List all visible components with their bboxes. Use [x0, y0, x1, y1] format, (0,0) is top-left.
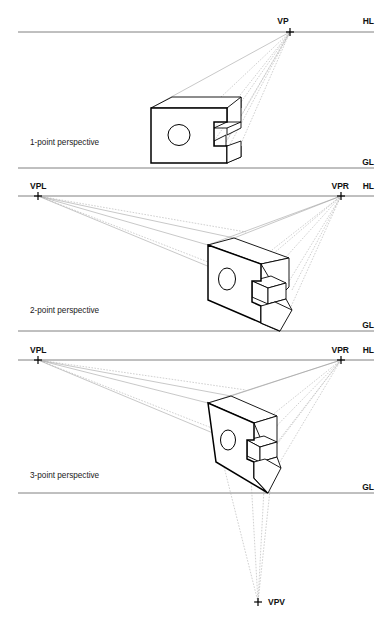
vanishing-point-vpv-3	[254, 598, 262, 606]
label-vpr-2: VPR	[332, 181, 349, 191]
caption-one-point: 1-point perspective	[30, 138, 100, 147]
label-hl-3: HL	[363, 345, 374, 355]
vanishing-point-vpr-2	[337, 192, 345, 200]
vanishing-point-vpl-3	[34, 356, 42, 364]
panel-one-point: VP HL GL 1-point perspective	[18, 16, 374, 168]
panel-three-point: VPL VPR HL GL VPV 3-point perspective	[18, 345, 374, 607]
panel-two-point: VPL VPR HL GL 2-point perspective	[18, 181, 374, 331]
label-vp-1: VP	[277, 16, 289, 26]
label-vpv-3: VPV	[268, 597, 285, 607]
circular-hole-2	[219, 268, 236, 290]
label-vpr-3: VPR	[332, 345, 349, 355]
caption-three-point: 3-point perspective	[30, 471, 100, 480]
vanishing-point-vpl-2	[34, 192, 42, 200]
object-three-point	[208, 396, 281, 493]
caption-two-point: 2-point perspective	[30, 306, 100, 315]
label-gl-3: GL	[362, 482, 374, 492]
label-hl-1: HL	[363, 16, 374, 26]
circular-hole-1	[168, 125, 190, 146]
label-hl-2: HL	[363, 181, 374, 191]
label-vpl-3: VPL	[30, 345, 47, 355]
label-vpl-2: VPL	[30, 181, 47, 191]
circular-hole-3	[221, 430, 236, 450]
label-gl-1: GL	[362, 157, 374, 167]
object-one-point	[151, 97, 241, 163]
perspective-diagram-canvas: VP HL GL 1-point perspective	[0, 0, 392, 624]
object-two-point	[208, 238, 292, 331]
label-gl-2: GL	[362, 320, 374, 330]
perspective-diagram: VP HL GL 1-point perspective	[0, 0, 392, 624]
